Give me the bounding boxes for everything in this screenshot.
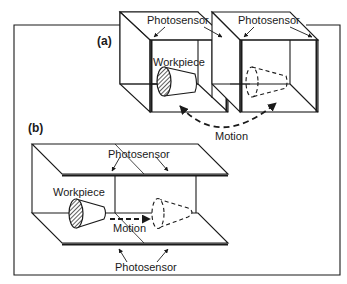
workpiece-label-b: Workpiece [53, 186, 105, 198]
photosensor-label-a2: Photosensor [238, 14, 300, 26]
sensor-box-2 [212, 12, 318, 112]
workpiece-ghost-a [246, 67, 287, 97]
motion-label-b: Motion [113, 222, 146, 234]
photosensor-diagram: (a) Photosensor Photosensor Workpiece Mo… [0, 0, 347, 284]
photosensor-label-b-bottom: Photosensor [115, 261, 177, 273]
panel-a [120, 12, 318, 127]
photosensor-label-b-top: Photosensor [108, 148, 170, 160]
box-2-front [240, 40, 318, 112]
panel-a-tag: (a) [97, 34, 112, 48]
motion-label-a: Motion [215, 130, 248, 142]
panel-b-tag: (b) [28, 121, 43, 135]
photosensor-label-a1: Photosensor [147, 14, 209, 26]
panel-b [32, 144, 228, 262]
workpiece-label-a: Workpiece [153, 56, 205, 68]
